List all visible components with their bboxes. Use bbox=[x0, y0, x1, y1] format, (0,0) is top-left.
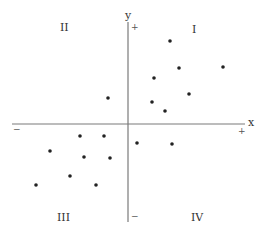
data-point bbox=[78, 134, 82, 138]
data-point bbox=[170, 142, 174, 146]
data-point bbox=[177, 66, 181, 70]
scatter-diagram bbox=[0, 0, 268, 237]
data-point bbox=[150, 100, 154, 104]
data-point bbox=[168, 39, 172, 43]
data-point bbox=[108, 156, 112, 160]
quadrant-label-ii: II bbox=[60, 22, 69, 33]
data-point bbox=[187, 92, 191, 96]
y-axis-positive-sign: + bbox=[131, 23, 139, 32]
quadrant-label-iv: IV bbox=[191, 212, 203, 223]
data-point bbox=[82, 155, 86, 159]
x-axis-positive-sign: + bbox=[238, 127, 246, 136]
data-point bbox=[135, 141, 139, 145]
quadrant-label-i: I bbox=[192, 24, 196, 35]
data-point bbox=[34, 183, 38, 187]
data-point bbox=[152, 76, 156, 80]
data-point bbox=[48, 149, 52, 153]
data-point bbox=[94, 183, 98, 187]
data-point bbox=[106, 96, 110, 100]
quadrant-label-iii: III bbox=[57, 212, 70, 223]
data-point bbox=[102, 134, 106, 138]
x-axis-negative-sign: − bbox=[13, 125, 21, 134]
data-points bbox=[34, 39, 225, 187]
data-point bbox=[163, 109, 167, 113]
x-axis-label: x bbox=[248, 117, 254, 128]
data-point bbox=[221, 65, 225, 69]
y-axis-label: y bbox=[125, 10, 131, 21]
y-axis-negative-sign: − bbox=[131, 212, 139, 221]
data-point bbox=[68, 174, 72, 178]
